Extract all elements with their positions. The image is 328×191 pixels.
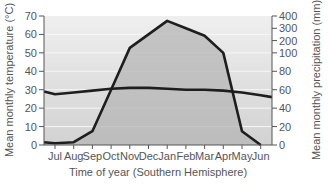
- left-tick-label: 70: [25, 10, 37, 22]
- left-tick-label: 0: [31, 139, 37, 151]
- left-tick-label: 50: [25, 47, 37, 59]
- x-tick-label: Apr: [215, 150, 232, 162]
- x-tick-label: Jul: [48, 150, 62, 162]
- right-tick-label: 20: [279, 121, 291, 133]
- left-y-axis: 010203040506070: [25, 10, 44, 151]
- x-axis-title: Time of year (Southern Hemisphere): [69, 166, 247, 178]
- right-tick-label: 40: [279, 102, 291, 114]
- right-y-axis: 020406080100200300400: [272, 10, 297, 151]
- x-tick-label: Dec: [139, 150, 159, 162]
- x-tick-label: Sep: [83, 150, 103, 162]
- x-tick-label: Jun: [252, 150, 270, 162]
- x-tick-label: Aug: [64, 150, 84, 162]
- left-tick-label: 30: [25, 84, 37, 96]
- right-tick-label: 200: [279, 35, 297, 47]
- right-tick-label: 80: [279, 65, 291, 77]
- right-tick-label: 0: [279, 139, 285, 151]
- x-tick-label: Nov: [120, 150, 140, 162]
- right-tick-label: 60: [279, 84, 291, 96]
- right-tick-label: 400: [279, 10, 297, 22]
- left-tick-label: 10: [25, 121, 37, 133]
- left-tick-label: 40: [25, 65, 37, 77]
- right-tick-label: 100: [279, 47, 297, 59]
- x-tick-label: Mar: [195, 150, 214, 162]
- left-tick-label: 20: [25, 102, 37, 114]
- x-tick-label: Feb: [176, 150, 195, 162]
- climate-chart: 010203040506070 020406080100200300400 Ju…: [0, 0, 328, 191]
- left-y-axis-title: Mean monthly temperature (°C): [3, 3, 15, 157]
- x-axis: JulAugSepOctNovDecJanFebMarAprMayJun: [44, 145, 272, 162]
- left-tick-label: 60: [25, 28, 37, 40]
- right-y-axis-title: Mean monthly precipitation (mm): [310, 0, 322, 160]
- x-tick-label: Oct: [103, 150, 120, 162]
- x-tick-label: Jan: [158, 150, 176, 162]
- x-tick-label: May: [232, 150, 253, 162]
- right-tick-label: 300: [279, 22, 297, 34]
